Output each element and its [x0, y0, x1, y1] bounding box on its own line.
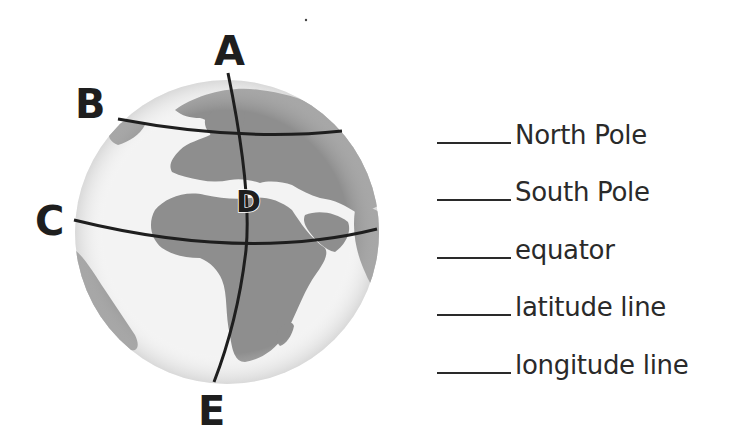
- label-d: D: [236, 184, 261, 219]
- label-c: C: [35, 198, 64, 244]
- answer-list: North Pole South Pole equator latitude l…: [437, 94, 689, 382]
- answer-row-longitude-line: longitude line: [437, 324, 689, 382]
- stray-dot: [305, 19, 307, 21]
- answer-blank[interactable]: [437, 257, 511, 259]
- answer-blank[interactable]: [437, 142, 511, 144]
- answer-term: equator: [515, 233, 615, 267]
- answer-row-latitude-line: latitude line: [437, 267, 689, 325]
- answer-blank[interactable]: [437, 314, 511, 316]
- answer-blank[interactable]: [437, 372, 511, 374]
- label-e: E: [198, 388, 225, 434]
- answer-term: longitude line: [515, 348, 689, 382]
- answer-term: South Pole: [515, 175, 650, 209]
- answer-blank[interactable]: [437, 199, 511, 201]
- label-b: B: [75, 81, 106, 127]
- answer-term: latitude line: [515, 290, 666, 324]
- answer-row-south-pole: South Pole: [437, 152, 689, 210]
- answer-row-north-pole: North Pole: [437, 94, 689, 152]
- answer-term: North Pole: [515, 118, 647, 152]
- label-a: A: [214, 28, 245, 74]
- answer-row-equator: equator: [437, 209, 689, 267]
- globe: [75, 80, 390, 384]
